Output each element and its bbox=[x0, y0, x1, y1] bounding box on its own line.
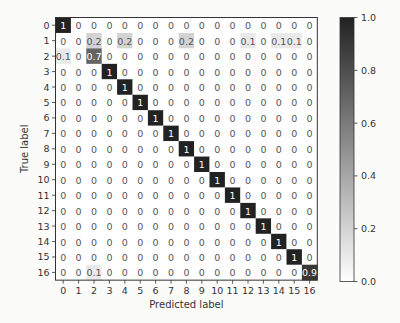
cell-label-12-7: 0 bbox=[168, 206, 174, 217]
cell-label-2-5: 0 bbox=[137, 51, 143, 62]
cell-label-16-5: 0 bbox=[137, 267, 143, 278]
cell-label-0-4: 0 bbox=[122, 20, 128, 31]
cell-label-8-3: 0 bbox=[106, 144, 112, 155]
cell-label-3-5: 0 bbox=[137, 67, 143, 78]
cell-label-5-12: 0 bbox=[245, 97, 251, 108]
cell-label-10-8: 0 bbox=[183, 175, 189, 186]
cell-label-14-8: 0 bbox=[183, 237, 189, 248]
cell-label-0-6: 0 bbox=[153, 20, 159, 31]
colorbar-tick-label-4: 0.8 bbox=[361, 65, 376, 76]
cell-label-11-0: 0 bbox=[60, 190, 66, 201]
cell-label-6-14: 0 bbox=[276, 113, 282, 124]
cell-label-13-8: 0 bbox=[183, 221, 189, 232]
x-tick-label-13: 13 bbox=[257, 285, 269, 296]
cell-label-7-9: 0 bbox=[199, 128, 205, 139]
cell-label-6-13: 0 bbox=[260, 113, 266, 124]
cell-label-9-4: 0 bbox=[122, 159, 128, 170]
cell-label-2-6: 0 bbox=[153, 51, 159, 62]
cell-label-6-11: 0 bbox=[230, 113, 236, 124]
cell-label-4-3: 0 bbox=[106, 82, 112, 93]
y-tick-label-7: 7 bbox=[43, 128, 49, 139]
cell-label-16-16: 0.9 bbox=[302, 267, 317, 278]
cell-label-15-14: 0 bbox=[276, 252, 282, 263]
cell-label-2-10: 0 bbox=[214, 51, 220, 62]
cell-label-1-0: 0 bbox=[60, 36, 66, 47]
cell-label-12-0: 0 bbox=[60, 206, 66, 217]
cell-label-11-10: 0 bbox=[214, 190, 220, 201]
cell-label-8-11: 0 bbox=[230, 144, 236, 155]
cell-label-11-14: 0 bbox=[276, 190, 282, 201]
cell-label-1-13: 0 bbox=[260, 36, 266, 47]
cell-label-12-12: 1 bbox=[245, 206, 251, 217]
cell-label-5-0: 0 bbox=[60, 97, 66, 108]
cell-label-0-11: 0 bbox=[230, 20, 236, 31]
cell-label-14-7: 0 bbox=[168, 237, 174, 248]
cell-label-5-8: 0 bbox=[183, 97, 189, 108]
cell-label-3-6: 0 bbox=[153, 67, 159, 78]
cell-label-11-9: 0 bbox=[199, 190, 205, 201]
cell-label-4-6: 0 bbox=[153, 82, 159, 93]
cell-label-7-5: 0 bbox=[137, 128, 143, 139]
cell-label-16-1: 0 bbox=[76, 267, 82, 278]
cell-label-13-5: 0 bbox=[137, 221, 143, 232]
cell-label-6-15: 0 bbox=[291, 113, 297, 124]
cell-label-15-7: 0 bbox=[168, 252, 174, 263]
y-tick-label-1: 1 bbox=[43, 35, 49, 46]
x-axis-title: Predicted label bbox=[149, 299, 223, 310]
cell-label-10-0: 0 bbox=[60, 175, 66, 186]
cell-label-3-10: 0 bbox=[214, 67, 220, 78]
cell-label-12-4: 0 bbox=[122, 206, 128, 217]
colorbar-tick-label-5: 1.0 bbox=[361, 12, 376, 23]
x-tick-label-15: 15 bbox=[288, 285, 300, 296]
cell-label-0-14: 0 bbox=[276, 20, 282, 31]
cell-label-2-3: 0 bbox=[106, 51, 112, 62]
cell-label-12-11: 0 bbox=[230, 206, 236, 217]
cell-label-7-12: 0 bbox=[245, 128, 251, 139]
cell-label-2-13: 0 bbox=[260, 51, 266, 62]
cell-label-4-11: 0 bbox=[230, 82, 236, 93]
cell-label-16-15: 0 bbox=[291, 267, 297, 278]
y-tick-label-9: 9 bbox=[43, 159, 49, 170]
cell-label-5-7: 0 bbox=[168, 97, 174, 108]
cell-label-9-8: 0 bbox=[183, 159, 189, 170]
cell-label-14-11: 0 bbox=[230, 237, 236, 248]
cell-label-16-7: 0 bbox=[168, 267, 174, 278]
cell-label-9-7: 0 bbox=[168, 159, 174, 170]
cell-label-1-2: 0.2 bbox=[86, 36, 101, 47]
cell-label-7-8: 0 bbox=[183, 128, 189, 139]
cell-label-12-6: 0 bbox=[153, 206, 159, 217]
cell-label-3-9: 0 bbox=[199, 67, 205, 78]
cell-label-4-12: 0 bbox=[245, 82, 251, 93]
x-tick-label-0: 0 bbox=[60, 285, 66, 296]
cell-label-4-5: 0 bbox=[137, 82, 143, 93]
y-tick-label-3: 3 bbox=[43, 66, 49, 77]
y-tick-label-15: 15 bbox=[37, 251, 49, 262]
cell-label-8-12: 0 bbox=[245, 144, 251, 155]
cell-label-5-1: 0 bbox=[76, 97, 82, 108]
cell-label-11-16: 0 bbox=[307, 190, 313, 201]
cell-label-16-10: 0 bbox=[214, 267, 220, 278]
cell-label-5-5: 1 bbox=[137, 97, 143, 108]
cell-label-0-1: 0 bbox=[76, 20, 82, 31]
cell-label-3-13: 0 bbox=[260, 67, 266, 78]
cell-label-16-12: 0 bbox=[245, 267, 251, 278]
cell-label-15-9: 0 bbox=[199, 252, 205, 263]
y-tick-label-13: 13 bbox=[37, 221, 49, 232]
colorbar-tick-label-2: 0.4 bbox=[361, 170, 376, 181]
x-tick-label-12: 12 bbox=[242, 285, 254, 296]
cell-label-6-5: 0 bbox=[137, 113, 143, 124]
cell-label-1-6: 0 bbox=[153, 36, 159, 47]
cell-label-1-1: 0 bbox=[76, 36, 82, 47]
cell-label-9-0: 0 bbox=[60, 159, 66, 170]
cell-label-8-4: 0 bbox=[122, 144, 128, 155]
y-tick-label-8: 8 bbox=[43, 143, 49, 154]
cell-label-3-0: 0 bbox=[60, 67, 66, 78]
cell-label-10-12: 0 bbox=[245, 175, 251, 186]
cell-label-2-11: 0 bbox=[230, 51, 236, 62]
cell-label-6-3: 0 bbox=[106, 113, 112, 124]
cell-label-7-16: 0 bbox=[307, 128, 313, 139]
cell-label-4-14: 0 bbox=[276, 82, 282, 93]
cell-label-13-2: 0 bbox=[91, 221, 97, 232]
cell-label-14-0: 0 bbox=[60, 237, 66, 248]
y-tick-label-4: 4 bbox=[43, 82, 49, 93]
